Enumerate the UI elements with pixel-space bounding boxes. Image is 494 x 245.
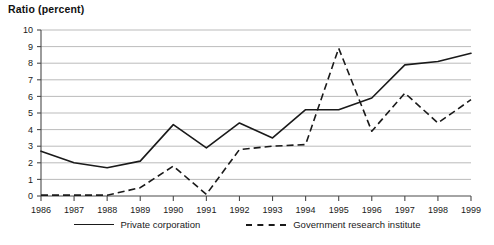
y-axis-tick-labels: 012345678910 [23,25,33,201]
legend-label-private-corporation: Private corporation [121,219,201,230]
series-line-private-corporation [41,53,471,168]
legend-entry-government-research-institute: Government research institute [246,219,420,230]
x-tick-label: 1995 [329,205,349,214]
series-line-government-research-institute [41,48,471,195]
x-tick-label: 1986 [31,205,51,214]
y-tick-label: 10 [23,25,33,35]
x-tick-label: 1993 [263,205,283,214]
y-tick-label: 2 [28,158,33,168]
y-tick-label: 3 [28,141,33,151]
y-tick-label: 0 [28,191,33,201]
gridlines-group [37,30,471,196]
y-tick-label: 6 [28,92,33,102]
x-tick-label: 1989 [130,205,150,214]
chart-legend: Private corporation Government research … [0,219,494,245]
legend-swatch-dashed-icon [246,224,286,226]
y-tick-label: 4 [28,125,33,135]
line-chart-svg: 012345678910 198619871988198919901991199… [0,22,494,214]
chart-container: Ratio (percent) 012345678910 19861987198… [0,0,494,245]
x-tick-label: 1991 [196,205,216,214]
x-axis-tick-marks [41,196,471,201]
y-tick-label: 8 [28,58,33,68]
x-tick-label: 1992 [229,205,249,214]
x-tick-label: 1987 [64,205,84,214]
y-tick-label: 7 [28,75,33,85]
plot-area: 012345678910 198619871988198919901991199… [0,22,494,214]
x-tick-label: 1999 [461,205,481,214]
y-tick-label: 5 [28,108,33,118]
x-tick-label: 1994 [296,205,316,214]
y-tick-label: 1 [28,175,33,185]
legend-label-government-research-institute: Government research institute [293,219,420,230]
y-tick-label: 9 [28,42,33,52]
x-tick-label: 1988 [97,205,117,214]
x-tick-label: 1998 [428,205,448,214]
x-tick-label: 1996 [362,205,382,214]
x-axis-tick-labels: 1986198719881989199019911992199319941995… [31,205,481,214]
legend-entry-private-corporation: Private corporation [74,219,201,230]
x-tick-label: 1990 [163,205,183,214]
x-tick-label: 1997 [395,205,415,214]
chart-title: Ratio (percent) [8,3,84,15]
legend-swatch-solid-icon [74,224,114,225]
